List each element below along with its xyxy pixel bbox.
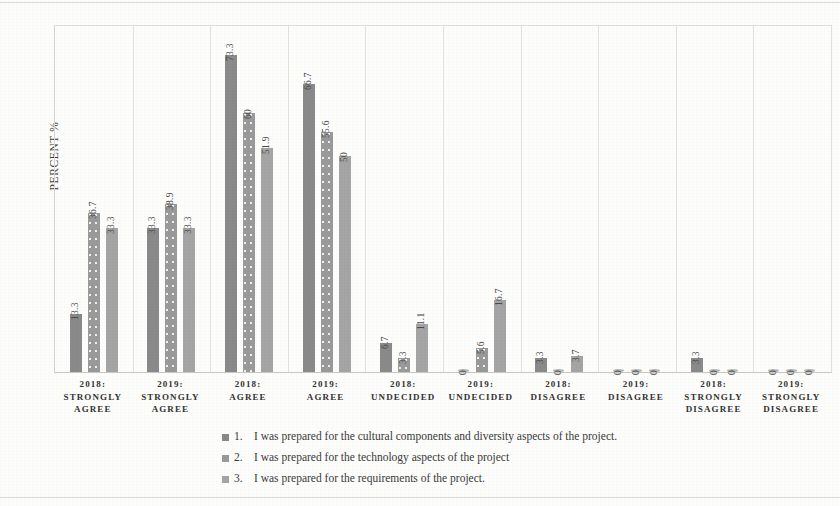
legend-swatch-icon (222, 434, 229, 441)
bar-series-2-category-1 (88, 213, 100, 372)
bar-series-1-category-1 (70, 314, 82, 372)
bar-series-3-category-3 (261, 148, 273, 372)
bar-series-1-category-3 (225, 55, 237, 372)
legend-item-number: 2. (234, 451, 254, 463)
bar-value-label: 16.7 (494, 288, 504, 306)
bar-value-label: 0 (649, 370, 659, 375)
legend-item-number: 3. (234, 472, 254, 484)
bar-value-label: 36.7 (88, 201, 98, 219)
x-axis-tick-9: 2018:STRONGLYDISAGREE (669, 378, 759, 416)
bar-series-2-category-2 (165, 204, 177, 372)
bar-value-label: 55.6 (321, 120, 331, 138)
legend-item-3: 3.I was prepared for the requirements of… (222, 472, 617, 493)
bar-series-3-category-5 (416, 324, 428, 372)
bar-value-label: 51.9 (261, 136, 271, 154)
bar-value-label: 0 (727, 370, 737, 375)
legend-swatch-icon (222, 455, 229, 462)
category-separator (133, 26, 134, 372)
bar-value-label: 3.3 (398, 351, 408, 364)
category-separator (443, 26, 444, 372)
bar-value-label: 60 (243, 108, 253, 118)
legend-swatch-icon (222, 476, 229, 483)
bar-value-label: 33.3 (147, 216, 157, 234)
bar-value-label: 73.3 (225, 43, 235, 61)
bar-value-label: 0 (613, 370, 623, 375)
category-separator (598, 26, 599, 372)
bar-value-label: 0 (786, 370, 796, 375)
legend-item-1: 1.I was prepared for the cultural compon… (222, 430, 617, 451)
x-axis-tick-10: 2019:STRONGLYDISAGREE (746, 378, 836, 416)
legend-item-number: 1. (234, 430, 254, 442)
scan-border-bottom (0, 497, 840, 498)
bar-value-label: 0 (804, 370, 814, 375)
chart-legend: 1.I was prepared for the cultural compon… (222, 430, 617, 493)
bar-value-label: 6.7 (380, 336, 390, 349)
bar-value-label: 33.3 (183, 216, 193, 234)
x-axis-tick-5: 2018:UNDECIDED (358, 378, 448, 403)
bar-value-label: 0 (768, 370, 778, 375)
legend-item-label: I was prepared for the requirements of t… (254, 472, 485, 484)
bar-value-label: 33.3 (106, 216, 116, 234)
bar-series-1-category-2 (147, 228, 159, 372)
legend-item-label: I was prepared for the technology aspect… (254, 451, 509, 463)
bar-value-label: 11.1 (416, 313, 426, 330)
bar-value-label: 0 (458, 370, 468, 375)
x-axis-tick-1: 2018:STRONGLYAGREE (48, 378, 138, 416)
bar-series-2-category-3 (243, 113, 255, 373)
plot-area: 13.336.733.333.338.933.373.36051.966.755… (54, 25, 832, 373)
bar-value-label: 3.3 (691, 351, 701, 364)
scan-border-top (0, 2, 840, 3)
bar-value-label: 3.3 (535, 351, 545, 364)
category-separator (288, 26, 289, 372)
x-axis-tick-2: 2019:STRONGLYAGREE (126, 378, 216, 416)
legend-item-label: I was prepared for the cultural componen… (254, 430, 617, 442)
chart-figure: PERCENT % 13.336.733.333.338.933.373.360… (0, 0, 840, 506)
bar-series-1-category-4 (303, 84, 315, 372)
bar-value-label: 0 (631, 370, 641, 375)
bar-value-label: 3.7 (571, 349, 581, 362)
x-axis-tick-7: 2018:DISAGREE (514, 378, 604, 403)
legend-item-2: 2.I was prepared for the technology aspe… (222, 451, 617, 472)
bar-value-label: 50 (339, 152, 349, 162)
x-axis-tick-6: 2019:UNDECIDED (436, 378, 526, 403)
category-separator (365, 26, 366, 372)
category-separator (676, 26, 677, 372)
category-separator (521, 26, 522, 372)
bar-value-label: 13.3 (70, 303, 80, 321)
bar-series-3-category-1 (106, 228, 118, 372)
x-axis-tick-4: 2019:AGREE (281, 378, 371, 403)
bar-series-2-category-4 (321, 132, 333, 372)
category-separator (753, 26, 754, 372)
bar-value-label: 5.6 (476, 341, 486, 354)
bar-value-label: 38.9 (165, 192, 175, 210)
bar-series-3-category-4 (339, 156, 351, 372)
bar-value-label: 66.7 (303, 72, 313, 90)
category-separator (210, 26, 211, 372)
x-axis-tick-3: 2018:AGREE (203, 378, 293, 403)
bar-series-3-category-2 (183, 228, 195, 372)
x-axis-tick-8: 2019:DISAGREE (591, 378, 681, 403)
bar-value-label: 0 (709, 370, 719, 375)
bar-series-3-category-6 (494, 300, 506, 372)
bar-value-label: 0 (553, 370, 563, 375)
